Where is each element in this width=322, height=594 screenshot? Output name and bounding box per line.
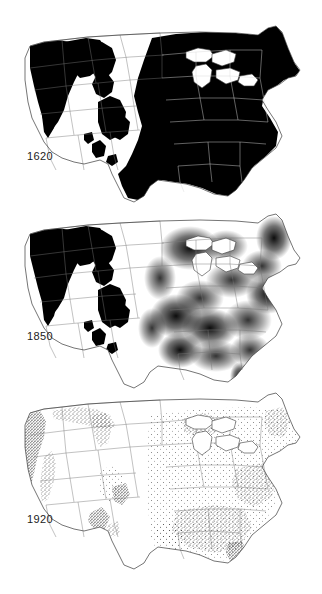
year-label-1620: 1620 [27, 150, 53, 162]
year-label-1850: 1850 [27, 330, 53, 342]
forest-fill-1620 [0, 18, 322, 213]
forest-cover-figure: 1620 [0, 0, 322, 594]
map-panel-1920: 1920 [0, 385, 322, 585]
map-1850 [0, 208, 322, 393]
map-panel-1850: 1850 [0, 208, 322, 393]
year-label-1920: 1920 [27, 513, 53, 525]
map-1920 [0, 385, 322, 585]
map-panel-1620: 1620 [0, 18, 322, 213]
map-1620 [0, 18, 322, 213]
